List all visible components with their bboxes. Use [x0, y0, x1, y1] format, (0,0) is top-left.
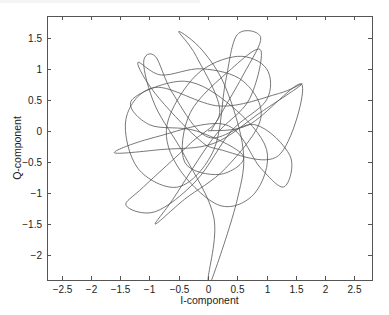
y-tick-label: 1.5	[28, 33, 42, 44]
y-tick-label: 0	[36, 126, 42, 137]
trajectory-line	[114, 31, 302, 286]
y-tick-label: −1.5	[22, 219, 42, 230]
y-tick-label: −2	[31, 250, 43, 261]
y-tick-label: 0.5	[28, 95, 42, 106]
y-tick-label: −0.5	[22, 157, 42, 168]
x-tick-label: −2	[86, 284, 98, 295]
x-tick-label: −2.5	[53, 284, 73, 295]
y-tick-label: −1	[31, 188, 43, 199]
x-axis-ticks: −2.5−2−1.5−1−0.500.511.522.5	[53, 16, 362, 295]
x-tick-label: 2	[323, 284, 329, 295]
iq-constellation-chart: −2.5−2−1.5−1−0.500.511.522.5 −2−1.5−1−0.…	[0, 0, 389, 315]
x-tick-label: 1	[265, 284, 271, 295]
x-tick-label: −1	[144, 284, 156, 295]
axes-box	[48, 17, 373, 281]
y-axis-label: Q-component	[11, 116, 23, 180]
x-tick-label: 1.5	[290, 284, 304, 295]
plot-area	[114, 31, 302, 286]
x-axis-label: I-component	[180, 294, 238, 306]
x-tick-label: 2.5	[348, 284, 362, 295]
y-tick-label: 1	[36, 64, 42, 75]
x-tick-label: −1.5	[111, 284, 131, 295]
